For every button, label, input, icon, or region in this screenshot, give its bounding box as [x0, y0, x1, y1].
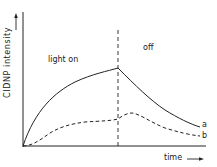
y-axis-arrow-icon — [14, 13, 18, 30]
phase-on-label: light on — [48, 56, 78, 64]
phase-off-label: off — [143, 44, 153, 52]
cidnp-chart — [0, 0, 217, 167]
curve-b — [23, 113, 200, 146]
curve-a-label: a — [202, 121, 207, 129]
curve-b-label: b — [202, 132, 207, 140]
curve-a — [23, 68, 200, 146]
y-axis-label: CIDNP intensity — [3, 27, 12, 98]
x-axis-label: time — [164, 154, 182, 162]
x-axis-arrow-icon — [187, 157, 204, 161]
